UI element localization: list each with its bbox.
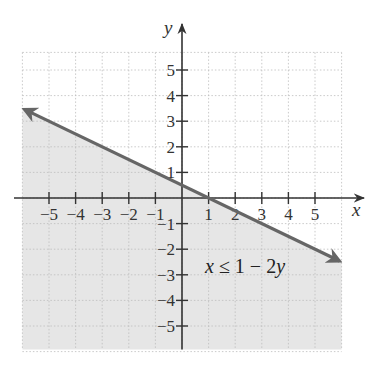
x-tick-label: −4 (67, 205, 86, 224)
inequality-operator: ≤ 1 − 2 (214, 255, 276, 277)
y-tick-label: 4 (167, 87, 176, 106)
y-tick-label: −1 (157, 215, 175, 234)
y-tick-label: −2 (157, 240, 175, 259)
x-tick-label: 5 (311, 205, 320, 224)
x-tick-label: −2 (120, 205, 138, 224)
x-axis-label: x (351, 199, 361, 220)
y-tick-label: 5 (167, 61, 176, 80)
y-tick-label: −4 (157, 291, 176, 310)
x-tick-label: −3 (93, 205, 111, 224)
y-tick-label: −3 (157, 266, 175, 285)
x-tick-label: −5 (40, 205, 58, 224)
inequality-label: x ≤ 1 − 2y (204, 255, 285, 278)
inequality-var-x: x (204, 255, 214, 277)
y-tick-label: 3 (167, 112, 176, 131)
y-axis-label: y (162, 17, 173, 38)
y-tick-label: 2 (167, 138, 176, 157)
y-tick-label: −5 (157, 317, 175, 336)
x-tick-label: 1 (204, 205, 213, 224)
x-tick-label: 4 (284, 205, 293, 224)
inequality-var-y: y (274, 255, 285, 278)
inequality-graph: −5−4−3−2−112345−5−4−3−2−112345 x y x ≤ 1… (0, 0, 387, 368)
